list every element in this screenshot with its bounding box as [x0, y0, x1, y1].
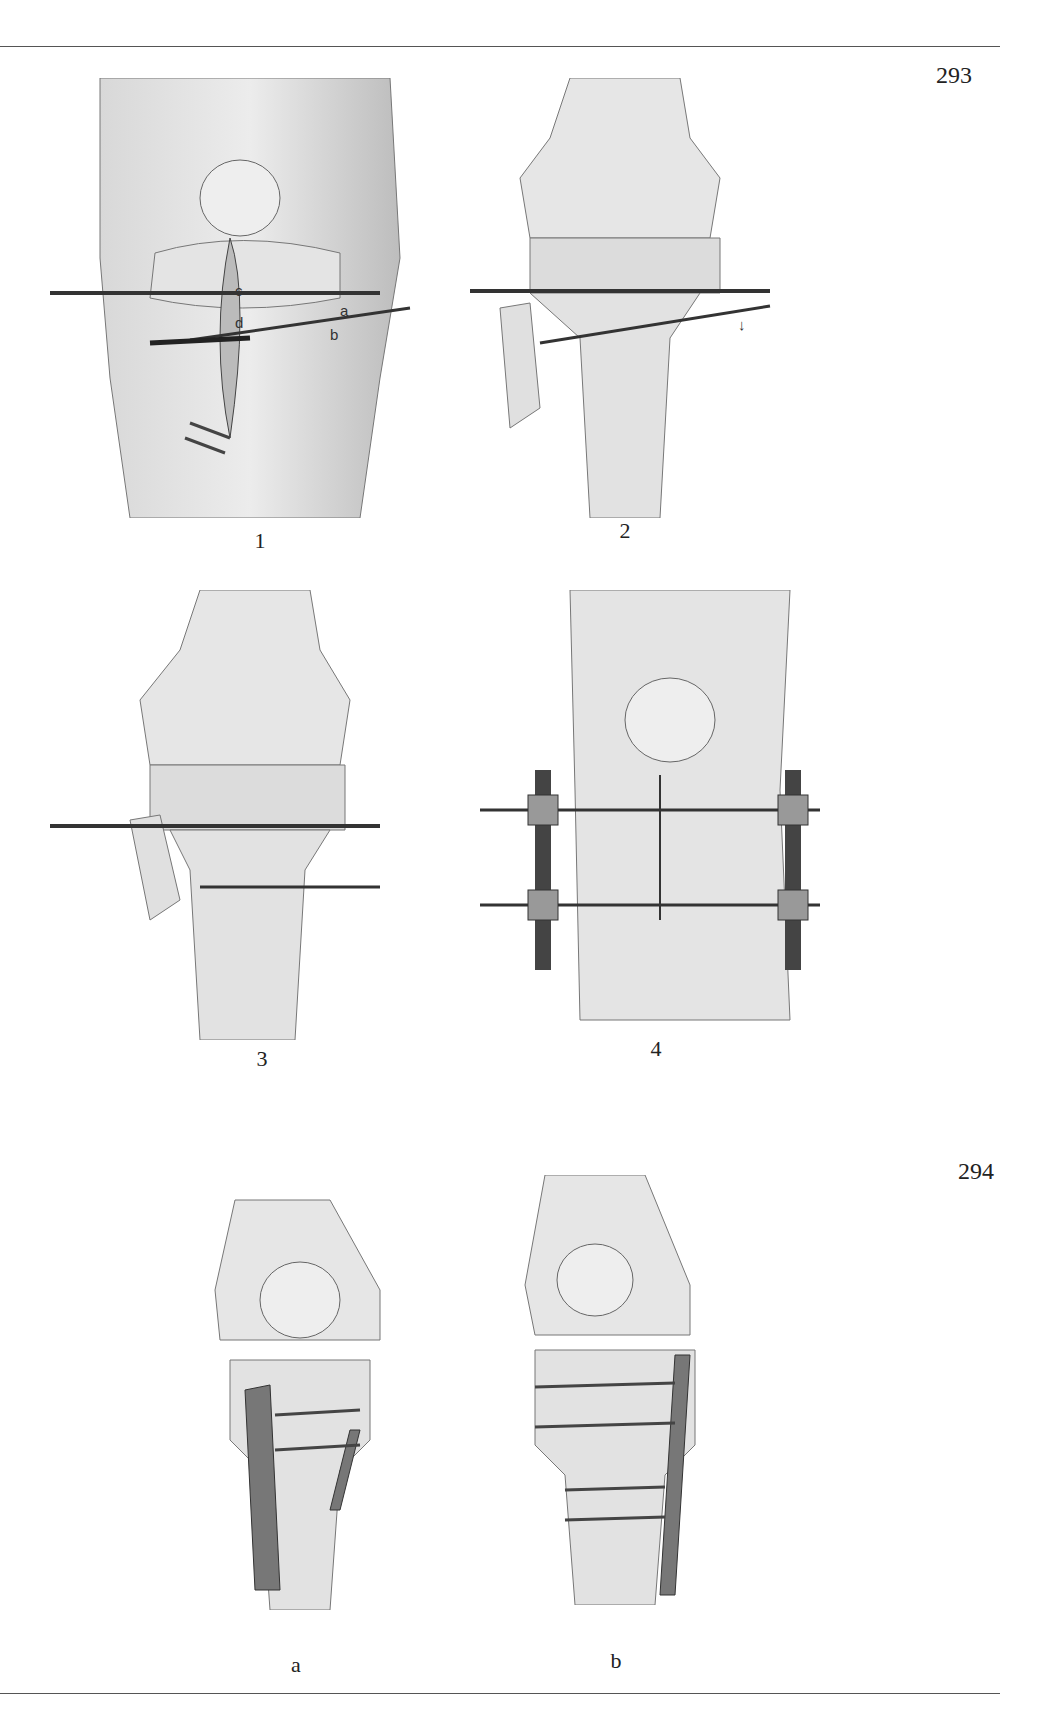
tibial-osteotomy-illustration: ↓: [470, 78, 780, 518]
figure-293-panel-1: a b c d: [50, 78, 430, 518]
lateral-plate-fixation-illustration: [495, 1175, 725, 1605]
figure-294-panel-b: [495, 1175, 725, 1605]
tibial-plateau-reduction-illustration: [50, 590, 430, 1040]
panel-label-b: b: [596, 1648, 636, 1674]
panel-label-a: a: [276, 1652, 316, 1678]
top-rule: [0, 46, 1000, 47]
direction-arrow: ↓: [738, 316, 746, 333]
figure-294-panel-a: [190, 1190, 420, 1610]
pin-label-a: a: [340, 302, 349, 319]
panel-label-1: 1: [240, 528, 280, 554]
external-fixator-illustration: [480, 590, 860, 1030]
screw-label-d: d: [235, 314, 243, 331]
screw-label-c: c: [235, 282, 243, 299]
double-plate-fixation-illustration: [190, 1190, 420, 1610]
figure-293-panel-3: [50, 590, 430, 1040]
figure-number-293: 293: [936, 62, 972, 89]
pin-label-b: b: [330, 326, 338, 343]
figure-number-294: 294: [958, 1158, 994, 1185]
bottom-rule: [0, 1693, 1000, 1694]
knee-incision-illustration: a b c d: [50, 78, 430, 518]
panel-label-2: 2: [605, 518, 645, 544]
panel-label-3: 3: [242, 1046, 282, 1072]
figure-293-panel-4: [480, 590, 860, 1030]
panel-label-4: 4: [636, 1036, 676, 1062]
figure-293-panel-2: ↓: [470, 78, 780, 518]
